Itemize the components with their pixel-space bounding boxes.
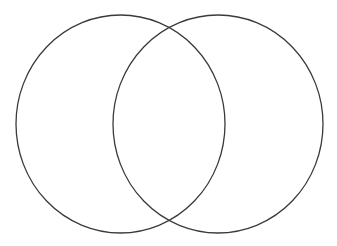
venn-circle-right: [113, 15, 323, 233]
venn-diagram-canvas: [0, 0, 337, 246]
venn-circle-left: [16, 15, 225, 233]
venn-diagram: [0, 0, 337, 246]
